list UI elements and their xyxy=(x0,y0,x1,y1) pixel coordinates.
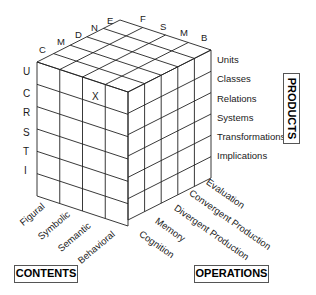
top-letter-n: N xyxy=(91,23,98,33)
product-implications: Implications xyxy=(217,151,267,161)
product-systems: Systems xyxy=(217,113,253,123)
products-axis-text: PRODUCTS xyxy=(286,78,298,140)
product-transformations: Transformations xyxy=(217,132,285,142)
top-letter-f: F xyxy=(140,14,146,24)
contents-axis-label: CONTENTS xyxy=(14,265,78,283)
row-letter-s: S xyxy=(23,128,30,138)
top-letter-s: S xyxy=(160,22,166,32)
top-letter-d: D xyxy=(75,30,82,40)
operations-axis-label: OPERATIONS xyxy=(194,265,269,283)
products-axis-label: PRODUCTS xyxy=(283,73,300,144)
row-letter-t: T xyxy=(23,147,29,157)
product-classes: Classes xyxy=(217,74,251,84)
row-letter-c: C xyxy=(23,89,30,99)
top-letter-m: M xyxy=(57,37,65,47)
row-letter-u: U xyxy=(23,67,30,77)
row-letter-i: I xyxy=(24,166,27,176)
product-units: Units xyxy=(217,55,239,65)
row-letter-r: R xyxy=(23,108,30,118)
top-letter-b: B xyxy=(201,33,207,43)
top-letter-e: E xyxy=(107,16,113,26)
contents-axis-text: CONTENTS xyxy=(16,267,77,279)
top-letter-m2: M xyxy=(180,28,188,38)
product-relations: Relations xyxy=(217,94,257,104)
top-letter-c: C xyxy=(39,45,46,55)
cell-marker-x: X xyxy=(92,92,99,102)
operations-axis-text: OPERATIONS xyxy=(196,267,268,279)
